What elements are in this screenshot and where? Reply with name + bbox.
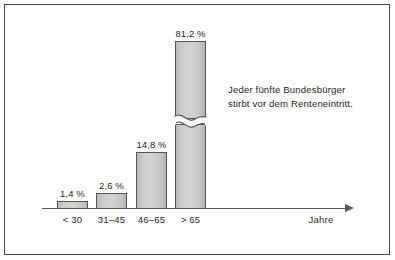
chart-figure: 1,4 % 2,6 % 14,8 % 81,2 % Jahre < 30 31–… [0,0,395,260]
plot-area: 1,4 % 2,6 % 14,8 % 81,2 % Jahre < 30 31–… [0,0,395,260]
x-axis-label: Jahre [286,214,356,225]
bar-31-45 [96,193,127,209]
chart-annotation-line-2: stirbt vor dem Renteneintritt. [228,97,353,111]
x-axis-line [42,208,347,209]
chart-annotation-line-1: Jeder fünfte Bundesbürger [228,83,353,97]
x-axis-arrow-icon [345,204,354,212]
bar-over-65-lower [175,124,206,209]
bar-46-65 [136,152,167,209]
chart-annotation: Jeder fünfte Bundesbürger stirbt vor dem… [228,83,353,110]
bar-value-label-over-65: 81,2 % [165,28,216,39]
bar-over-65-upper [175,41,206,119]
bar-value-label-31-45: 2,6 % [86,180,137,191]
bar-value-label-46-65: 14,8 % [126,139,177,150]
x-tick-label-over-65: > 65 [165,214,216,225]
